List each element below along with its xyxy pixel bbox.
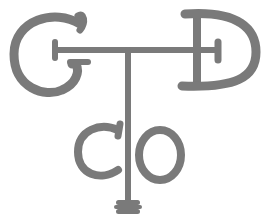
letter-g: [14, 17, 80, 93]
logo-graphic: [0, 0, 268, 224]
gtd-co-monogram-logo: [0, 0, 268, 224]
letter-o: [139, 130, 181, 180]
letter-c: [78, 127, 118, 176]
letter-t-base: [114, 200, 142, 214]
